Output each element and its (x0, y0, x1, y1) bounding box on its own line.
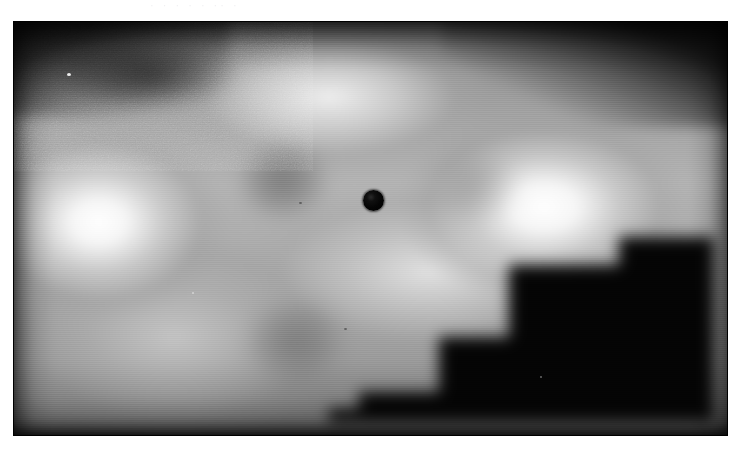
dark-speck (344, 328, 347, 330)
figure-image (13, 21, 728, 436)
bright-speck (67, 73, 71, 76)
cropped-text-remnant: · · · · · ·· · (0, 0, 755, 7)
bright-speck (540, 376, 542, 378)
dark-speck (299, 202, 302, 204)
bright-speck (192, 292, 194, 294)
dark-circular-spot (363, 190, 384, 211)
document-page: · · · · · ·· · (0, 0, 755, 457)
sensor-grain-texture (13, 21, 313, 171)
